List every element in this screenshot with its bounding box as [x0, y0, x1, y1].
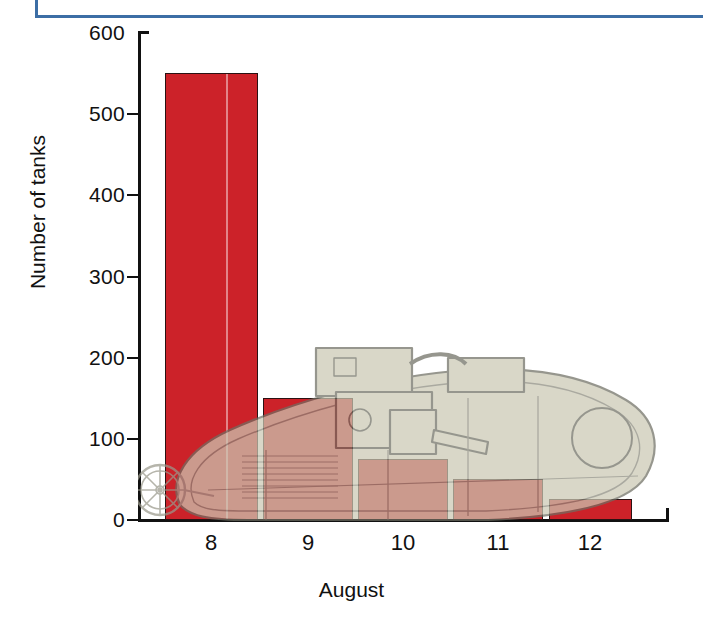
y-axis-labels: 600 500 400 300 200 100 0 — [20, 0, 125, 619]
y-tick-label-100: 100 — [39, 427, 125, 451]
y-tick-300 — [127, 276, 138, 278]
y-tick-label-400: 400 — [39, 183, 125, 207]
bar-chart: Number of tanks 600 500 400 300 200 100 … — [0, 0, 703, 619]
bar-aug-11[interactable] — [453, 479, 543, 520]
y-tick-label-600: 600 — [39, 21, 125, 45]
y-tick-0 — [127, 519, 138, 521]
x-tick-label-12: 12 — [560, 530, 620, 556]
x-tick-label-9: 9 — [278, 530, 338, 556]
tank-cab — [316, 348, 412, 396]
tank-sponson-inner — [390, 410, 436, 454]
bar-aug-9[interactable] — [263, 398, 353, 520]
tank-idler-wheel — [572, 408, 632, 468]
x-axis-right-cap — [666, 508, 669, 521]
y-tick-100 — [127, 438, 138, 440]
tank-cab-hatch — [334, 358, 356, 376]
y-tick-200 — [127, 357, 138, 359]
bar-sheen — [226, 74, 228, 519]
tank-gun-barrel — [432, 430, 488, 454]
bar-aug-10[interactable] — [358, 459, 448, 520]
y-tick-label-0: 0 — [39, 508, 125, 532]
y-axis-line — [138, 31, 141, 522]
x-tick-label-11: 11 — [468, 530, 528, 556]
y-tick-500 — [127, 113, 138, 115]
tank-rear-block — [448, 358, 524, 392]
x-tick-label-8: 8 — [181, 530, 241, 556]
bar-aug-8[interactable] — [165, 73, 258, 520]
y-tick-400 — [127, 194, 138, 196]
tank-exhaust-pipe — [410, 354, 466, 364]
x-tick-label-10: 10 — [373, 530, 433, 556]
y-tick-label-300: 300 — [39, 265, 125, 289]
bar-aug-12[interactable] — [549, 499, 632, 520]
x-axis-title: August — [0, 578, 703, 602]
y-tick-label-500: 500 — [39, 102, 125, 126]
y-tick-label-200: 200 — [39, 346, 125, 370]
